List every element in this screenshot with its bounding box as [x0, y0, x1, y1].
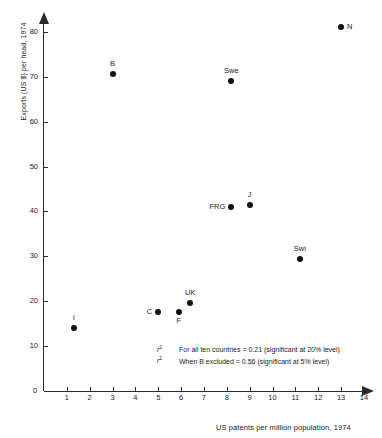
data-point-marker	[187, 300, 193, 306]
data-point-marker	[228, 78, 234, 84]
x-tick	[364, 387, 365, 391]
x-tick-label: 7	[196, 394, 212, 402]
annotation-text: For all ten countries = 0.21 (significan…	[179, 345, 340, 354]
data-point-marker	[110, 71, 116, 77]
y-tick-label: 30	[16, 252, 38, 260]
x-tick-label: 2	[82, 394, 98, 402]
x-tick-label: 9	[242, 394, 258, 402]
data-point-label: J	[248, 191, 252, 199]
x-tick	[273, 387, 274, 391]
y-axis-origin-label: 0	[33, 387, 37, 395]
x-tick	[181, 387, 182, 391]
r-squared-symbol: r2	[157, 343, 179, 354]
y-tick	[44, 32, 48, 33]
x-tick-label: 1	[59, 394, 75, 402]
x-tick	[158, 387, 159, 391]
x-tick-label: 11	[287, 394, 303, 402]
data-point-label: Swi	[294, 245, 306, 253]
r-squared-symbol: r2	[157, 354, 179, 365]
data-point-label: C	[147, 308, 152, 316]
y-tick-label: 50	[16, 163, 38, 171]
annotation-text: When B excluded = 0.56 (significant at 5…	[179, 357, 329, 366]
annotation-row: r2For all ten countries = 0.21 (signific…	[157, 343, 340, 354]
x-axis-line	[44, 391, 364, 392]
data-point-marker	[155, 309, 161, 315]
x-tick-label: 3	[105, 394, 121, 402]
data-point-label: I	[73, 314, 75, 322]
x-tick-label: 6	[173, 394, 189, 402]
x-tick	[341, 387, 342, 391]
x-tick-label: 12	[310, 394, 326, 402]
data-point-marker	[71, 325, 77, 331]
y-tick	[44, 77, 48, 78]
x-axis-title: US patents per million population, 1974	[216, 423, 351, 432]
x-tick	[113, 387, 114, 391]
y-tick	[44, 167, 48, 168]
x-tick-label: 8	[219, 394, 235, 402]
data-point-label: N	[347, 23, 352, 31]
x-tick	[135, 387, 136, 391]
x-tick-label: 14	[356, 394, 372, 402]
data-point-marker	[297, 256, 303, 262]
data-point-label: F	[177, 317, 182, 325]
y-tick	[44, 211, 48, 212]
data-point-marker	[247, 202, 253, 208]
y-tick	[44, 256, 48, 257]
x-tick	[227, 387, 228, 391]
y-tick-label: 10	[16, 342, 38, 350]
x-tick	[250, 387, 251, 391]
y-tick	[44, 301, 48, 302]
x-tick	[295, 387, 296, 391]
x-tick-label: 10	[265, 394, 281, 402]
y-tick-label: 40	[16, 207, 38, 215]
data-point-label: UK	[185, 289, 195, 297]
data-point-label: Swe	[224, 67, 239, 75]
x-tick	[67, 387, 68, 391]
y-axis-title: Exports (US $) per head, 1974	[20, 0, 27, 147]
data-point-marker	[338, 24, 344, 30]
y-tick-label: 20	[16, 297, 38, 305]
data-point-label: FRG	[210, 203, 226, 211]
data-point-marker	[228, 204, 234, 210]
x-tick	[204, 387, 205, 391]
x-tick	[90, 387, 91, 391]
annotation-row: r2When B excluded = 0.56 (significant at…	[157, 354, 340, 365]
data-point-marker	[176, 309, 182, 315]
y-tick	[44, 122, 48, 123]
regression-annotation: r2For all ten countries = 0.21 (signific…	[157, 343, 340, 366]
x-tick-label: 4	[127, 394, 143, 402]
y-tick	[44, 346, 48, 347]
y-axis-arrow-icon	[39, 12, 49, 24]
x-tick-label: 5	[150, 394, 166, 402]
data-point-label: B	[110, 60, 115, 68]
x-tick-label: 13	[333, 394, 349, 402]
x-tick	[318, 387, 319, 391]
scatter-chart: 1020304050607080 1234567891011121314 0 E…	[0, 0, 382, 438]
